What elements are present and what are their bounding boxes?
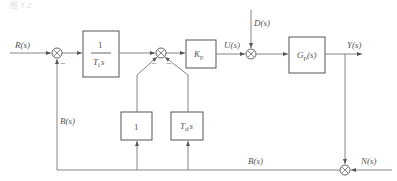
- pid-block-diagram: 图 7-2 R(s) − 1 Tis − − Kp U(s) D(: [0, 0, 397, 181]
- sum1-minus-sign: −: [60, 58, 65, 68]
- plant-block: Gp(s): [289, 37, 325, 73]
- summing-junction-2: − −: [151, 48, 171, 68]
- proportional-feedback-block: 1: [121, 112, 152, 140]
- control-signal-label: U(s): [224, 40, 240, 50]
- noise-label: N(s): [360, 156, 377, 166]
- proportional-feedback-label: 1: [134, 122, 139, 132]
- integral-block: 1 Tis: [83, 31, 119, 77]
- summing-junction-4: [340, 165, 350, 175]
- figure-caption: 图 7-2: [10, 1, 32, 10]
- input-label: R(s): [14, 40, 30, 50]
- derivative-feedback-block: Tds: [171, 112, 203, 140]
- integral-numerator: 1: [98, 40, 103, 50]
- sum2-left-minus-sign: −: [151, 58, 156, 68]
- feedback-bottom-label: B(s): [248, 156, 263, 166]
- gain-block: Kp: [186, 40, 216, 68]
- disturbance-label: D(s): [253, 18, 270, 28]
- input-signal: R(s): [10, 40, 51, 53]
- summing-junction-1: −: [52, 48, 65, 68]
- summing-junction-3: [246, 49, 256, 59]
- feedback-left-label: B(s): [60, 116, 75, 126]
- output-label: Y(s): [347, 40, 362, 50]
